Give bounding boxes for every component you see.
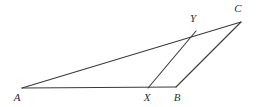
figure-canvas [0, 0, 268, 107]
segment-xy [148, 31, 196, 88]
segment-ab [22, 87, 176, 88]
vertex-label-y: Y [190, 13, 196, 24]
vertex-label-c: C [234, 3, 241, 14]
vertex-label-b: B [174, 92, 181, 103]
vertex-label-x: X [144, 92, 151, 103]
geometry-figure: A X B Y C [0, 0, 268, 107]
vertex-label-a: A [14, 92, 21, 103]
